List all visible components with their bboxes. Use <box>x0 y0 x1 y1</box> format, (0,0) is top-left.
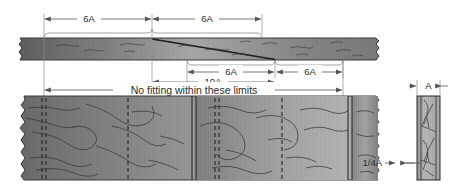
technical-drawing-canvas: 6A 6A 6A 6A <box>0 0 456 194</box>
dim-label-quarter-a: 1/4A <box>362 157 382 168</box>
edge-view-texture <box>20 38 378 60</box>
dim-label-mid-right: 6A <box>304 66 316 77</box>
dim-label-top-right: 6A <box>201 13 213 24</box>
detail-end-view <box>417 96 440 180</box>
edge-view-board <box>19 38 379 60</box>
detail-view-texture <box>417 96 440 180</box>
no-fitting-label: No fitting within these limits <box>131 84 258 96</box>
plan-view-board <box>20 96 380 180</box>
scarf-joint-diagram: 6A 6A 6A 6A <box>0 0 456 194</box>
dim-label-thickness-a: A <box>425 80 432 91</box>
dim-label-top-left: 6A <box>83 13 95 24</box>
